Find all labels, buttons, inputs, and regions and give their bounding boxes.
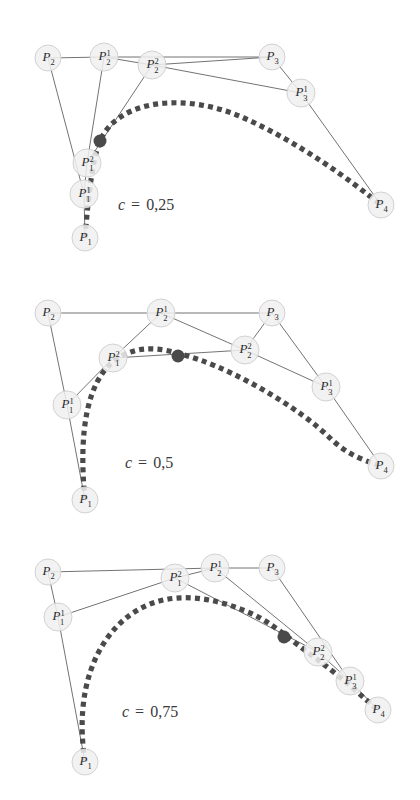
caption-symbol: c	[118, 196, 125, 213]
control-point-P1sup1[interactable]: P11	[53, 391, 81, 419]
control-segment	[301, 93, 381, 205]
control-point-subscript: 3	[274, 312, 278, 322]
control-point-P1[interactable]: P1	[72, 749, 98, 775]
control-point-P1sup2[interactable]: P21	[99, 344, 127, 372]
control-point-P2sup2[interactable]: P22	[138, 51, 166, 79]
control-point-subscript: 2	[50, 312, 54, 322]
bezier-curve	[82, 598, 378, 762]
control-segment	[152, 57, 272, 65]
control-point-subscript: 2	[50, 57, 54, 67]
control-point-subscript: 1	[69, 405, 73, 415]
control-point-subscript: 2	[163, 313, 167, 323]
control-point-P1[interactable]: P1	[72, 225, 98, 251]
control-point-subscript: 3	[328, 387, 332, 397]
control-point-P2sup2[interactable]: P22	[304, 638, 332, 666]
control-point-P2[interactable]: P2	[35, 559, 61, 585]
control-point-subscript: 2	[247, 350, 251, 360]
control-point-subscript: 2	[320, 652, 324, 662]
control-point-subscript: 1	[115, 358, 119, 368]
panel-caption: c=0,5	[125, 454, 173, 471]
control-point-P3sup1[interactable]: P13	[336, 667, 364, 695]
control-point-subscript: 1	[87, 499, 91, 509]
control-point-P2sup2[interactable]: P22	[231, 336, 259, 364]
control-point-subscript: 3	[352, 681, 356, 691]
caption-equals: =	[138, 454, 147, 471]
control-segment	[48, 568, 215, 572]
control-point-P2sup1[interactable]: P12	[201, 554, 229, 582]
control-point-subscript: 2	[50, 571, 54, 581]
control-segment	[152, 65, 301, 93]
control-point-P1sup2[interactable]: P21	[161, 564, 189, 592]
split-point-marker	[172, 350, 185, 363]
caption-equals: =	[135, 703, 144, 720]
control-point-P1[interactable]: P1	[72, 487, 98, 513]
control-point-subscript: 2	[106, 57, 110, 67]
bezier-curve	[85, 103, 381, 238]
caption-equals: =	[131, 196, 140, 213]
caption-value: 0,75	[150, 703, 178, 720]
control-point-subscript: 1	[86, 194, 90, 204]
panel-caption: c=0,25	[118, 196, 174, 213]
control-point-P2sup1[interactable]: P12	[90, 43, 118, 71]
control-point-P3sup1[interactable]: P13	[287, 79, 315, 107]
control-point-P3[interactable]: P3	[259, 555, 285, 581]
control-point-P3sup1[interactable]: P13	[312, 373, 340, 401]
panel-c-025: P2P12P22P3P13P4P21P11P1c=0,25	[35, 43, 394, 251]
control-point-subscript: 2	[154, 65, 158, 75]
control-point-subscript: 1	[87, 761, 91, 771]
control-segment	[215, 568, 318, 652]
control-point-P1sup1[interactable]: P11	[70, 180, 98, 208]
control-point-P2[interactable]: P2	[35, 45, 61, 71]
caption-value: 0,5	[153, 454, 173, 471]
caption-symbol: c	[125, 454, 132, 471]
control-polygon	[48, 57, 381, 238]
control-polygon	[48, 313, 381, 500]
control-point-subscript: 1	[89, 163, 93, 173]
split-point-marker	[94, 135, 107, 148]
control-point-P4[interactable]: P4	[368, 453, 394, 479]
panel-caption: c=0,75	[122, 703, 178, 720]
control-point-subscript: 2	[217, 568, 221, 578]
control-point-subscript: 3	[274, 56, 278, 66]
control-point-P2[interactable]: P2	[35, 300, 61, 326]
control-point-P2sup1[interactable]: P12	[147, 299, 175, 327]
control-point-subscript: 3	[303, 93, 307, 103]
control-point-P4[interactable]: P4	[365, 697, 391, 723]
control-point-P1sup1[interactable]: P11	[44, 603, 72, 631]
control-point-P3[interactable]: P3	[259, 44, 285, 70]
split-point-marker	[278, 631, 291, 644]
panel-c-05: P2P12P3P22P13P4P21P11P1c=0,5	[35, 299, 394, 513]
caption-symbol: c	[122, 703, 129, 720]
control-point-subscript: 1	[177, 578, 181, 588]
control-point-P4[interactable]: P4	[368, 192, 394, 218]
panel-c-075: P2P21P12P3P11P22P13P4P1c=0,75	[35, 554, 391, 775]
control-segment	[87, 65, 152, 163]
caption-value: 0,25	[146, 196, 174, 213]
control-segment	[58, 578, 175, 617]
control-point-P3[interactable]: P3	[259, 300, 285, 326]
control-point-subscript: 1	[60, 617, 64, 627]
control-point-P1sup2[interactable]: P21	[73, 149, 101, 177]
bezier-subdivision-figure: P2P12P22P3P13P4P21P11P1c=0,25P2P12P3P22P…	[0, 0, 420, 800]
bezier-curve	[83, 349, 381, 500]
control-point-subscript: 3	[274, 567, 278, 577]
control-point-subscript: 1	[87, 237, 91, 247]
figure-canvas: P2P12P22P3P13P4P21P11P1c=0,25P2P12P3P22P…	[0, 0, 420, 800]
